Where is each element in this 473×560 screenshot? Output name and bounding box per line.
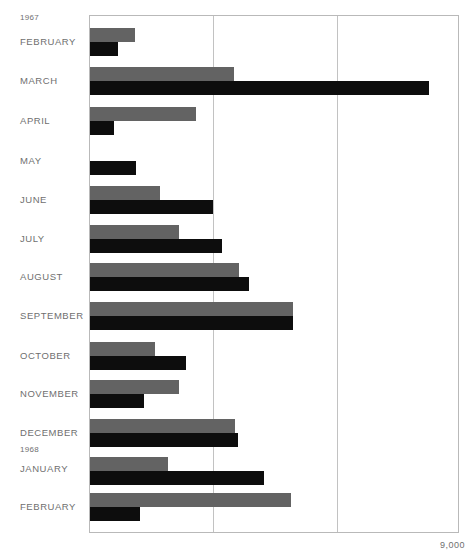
x-axis-max-label: 9,000 (440, 540, 465, 550)
year-label: 1967 (20, 13, 39, 23)
month-label: MAY (20, 155, 42, 166)
month-label: OCTOBER (20, 350, 71, 361)
bar-black (90, 81, 429, 95)
bar-gray (90, 225, 179, 239)
bar-gray (90, 107, 196, 121)
bar-gray (90, 28, 135, 42)
bar-black (90, 316, 293, 330)
month-label: APRIL (20, 115, 50, 126)
bar-black (90, 200, 213, 214)
bar-gray (90, 493, 291, 507)
month-label: FEBRUARY (20, 36, 76, 47)
bar-black (90, 507, 140, 521)
month-label: MARCH (20, 75, 58, 86)
bar-black (90, 394, 144, 408)
bar-gray (90, 419, 235, 433)
bar-black (90, 121, 114, 135)
bar-gray (90, 67, 234, 81)
plot-area (89, 15, 459, 533)
bar-gray (90, 186, 160, 200)
bar-gray (90, 342, 155, 356)
bar-gray (90, 302, 293, 316)
month-label: NOVEMBER (20, 388, 79, 399)
month-label: FEBRUARY (20, 501, 76, 512)
month-label: JULY (20, 233, 45, 244)
bar-black (90, 471, 264, 485)
bar-black (90, 239, 222, 253)
month-label: JUNE (20, 194, 47, 205)
horizontal-bar-chart: FEBRUARYMARCHAPRILMAYJUNEJULYAUGUSTSEPTE… (0, 0, 473, 560)
bar-black (90, 277, 249, 291)
bar-black (90, 433, 238, 447)
month-label: JANUARY (20, 463, 68, 474)
bar-gray (90, 263, 239, 277)
bar-gray (90, 380, 179, 394)
month-label: AUGUST (20, 271, 63, 282)
bar-black (90, 42, 118, 56)
month-label: DECEMBER (20, 427, 78, 438)
bar-black (90, 161, 136, 175)
bar-gray (90, 457, 168, 471)
month-label: SEPTEMBER (20, 310, 84, 321)
year-label: 1968 (20, 445, 39, 455)
bar-black (90, 356, 186, 370)
